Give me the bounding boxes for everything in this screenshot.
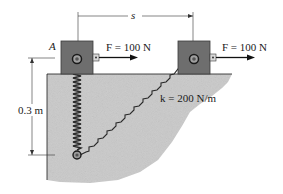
diagram-canvas: A F = 100 N F = 100 N s 0.3 m k = 200 N/… (0, 0, 283, 194)
label-displacement: s (131, 10, 135, 21)
diagram-svg (0, 0, 283, 194)
label-height: 0.3 m (18, 105, 43, 116)
label-force-left: F = 100 N (106, 42, 151, 53)
label-stiffness: k = 200 N/m (160, 93, 216, 104)
label-point-a: A (49, 41, 56, 52)
anchor-pin (73, 151, 81, 159)
label-force-right: F = 100 N (222, 42, 267, 53)
